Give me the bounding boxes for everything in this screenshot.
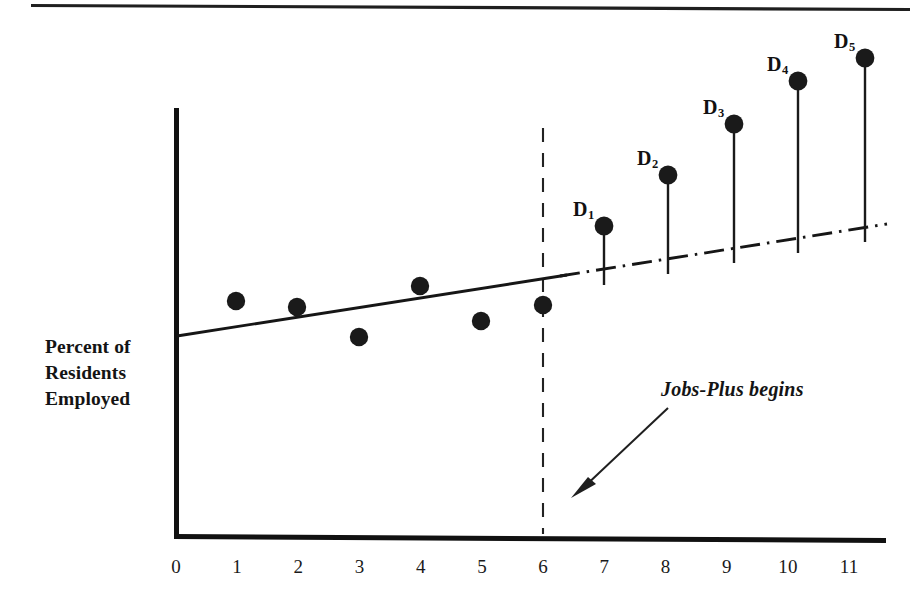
point-label-d2: D2 — [637, 147, 658, 170]
point-label-subscript: 5 — [849, 40, 855, 54]
figure-root: Percent of Residents Employed Jobs-Plus … — [0, 0, 923, 606]
x-tick-label-3: 3 — [355, 556, 365, 578]
annotation-arrow — [571, 408, 668, 498]
data-point — [350, 328, 368, 346]
x-tick-label-0: 0 — [171, 556, 181, 578]
point-label-subscript: 3 — [718, 106, 724, 120]
intervention-annotation: Jobs-Plus begins — [661, 378, 804, 401]
x-tick-label-10: 10 — [778, 556, 797, 578]
x-tick-label-4: 4 — [416, 556, 426, 578]
data-point — [856, 49, 875, 68]
x-tick-label-9: 9 — [722, 556, 732, 578]
data-point — [288, 298, 306, 316]
data-point — [411, 277, 429, 295]
pre-intervention-points — [227, 277, 552, 346]
point-label-d1: D1 — [573, 198, 594, 221]
data-point — [659, 166, 678, 185]
x-tick-label-7: 7 — [600, 556, 610, 578]
x-axis — [174, 537, 886, 541]
data-point — [472, 312, 490, 330]
x-tick-label-8: 8 — [661, 556, 671, 578]
data-point — [227, 292, 245, 310]
x-tick-label-5: 5 — [477, 556, 487, 578]
point-label-subscript: 1 — [588, 208, 594, 222]
top-rule — [31, 6, 910, 10]
y-axis-label: Percent of Residents Employed — [45, 334, 131, 412]
point-label-d3: D3 — [703, 96, 724, 119]
point-label-subscript: 2 — [652, 157, 658, 171]
x-tick-label-1: 1 — [232, 556, 242, 578]
data-point — [725, 115, 744, 134]
x-tick-label-2: 2 — [294, 556, 304, 578]
point-label-d5: D5 — [834, 30, 855, 53]
figure-canvas — [0, 0, 923, 606]
data-point — [595, 217, 614, 236]
data-point — [534, 296, 552, 314]
point-label-subscript: 4 — [782, 63, 788, 77]
point-label-d4: D4 — [767, 53, 788, 76]
data-point — [789, 72, 808, 91]
x-tick-label-6: 6 — [538, 556, 548, 578]
x-tick-label-11: 11 — [840, 556, 859, 578]
